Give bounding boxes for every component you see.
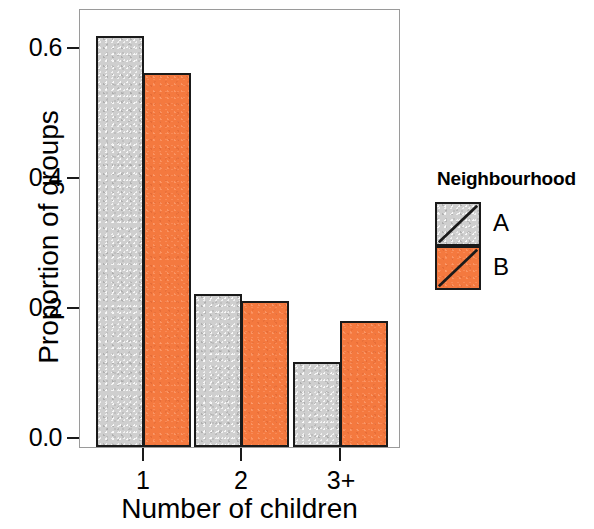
y-tick-mark-0.2 (67, 307, 79, 309)
legend-label-a: A (493, 210, 509, 236)
x-tick-mark-2 (240, 448, 242, 461)
y-tick-mark-0.0 (67, 437, 79, 439)
legend-row-a: A (435, 202, 481, 246)
legend: Neighbourhood A B (435, 168, 590, 290)
x-tick-label-1: 1 (136, 466, 150, 494)
legend-row-b: B (435, 246, 481, 290)
legend-title: Neighbourhood (437, 168, 590, 190)
bar-B-2 (241, 301, 289, 447)
x-tick-mark-3plus (339, 448, 341, 461)
legend-keys: A B (435, 202, 481, 290)
y-tick-label-0.0: 0.0 (29, 425, 62, 450)
x-axis-title: Number of children (79, 494, 400, 524)
y-tick-mark-0.6 (67, 47, 79, 49)
bar-chart-figure: 0.6 0.4 0.2 0.0 Proportion of groups 1 2… (0, 0, 594, 529)
legend-swatch-b-icon (435, 246, 481, 290)
legend-swatch-a-icon (435, 202, 481, 246)
bars-layer (80, 10, 399, 447)
legend-label-b: B (493, 254, 509, 280)
bar-B-1 (143, 73, 191, 447)
y-axis-title: Proportion of groups (34, 57, 64, 417)
x-tick-mark-1 (142, 448, 144, 461)
bar-A-1 (96, 36, 144, 447)
bar-A-3 (293, 362, 341, 447)
bar-B-3 (340, 321, 388, 447)
plot-panel (79, 9, 400, 448)
y-tick-mark-0.4 (67, 177, 79, 179)
x-tick-label-2: 2 (234, 466, 248, 494)
bar-A-2 (194, 294, 242, 447)
x-tick-label-3plus: 3+ (327, 466, 356, 494)
